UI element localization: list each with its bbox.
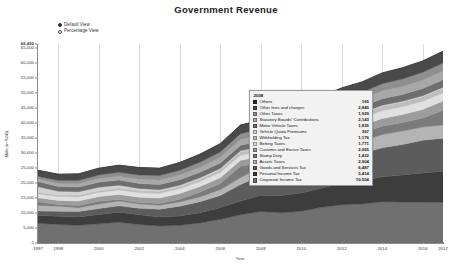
tooltip-row: Corporate Income Tax10,554 (253, 177, 369, 183)
x-axis-tick-label: 2002 (134, 246, 144, 251)
plot-area (37, 44, 443, 244)
y-axis-tick-label: 25,000 (21, 166, 34, 170)
x-axis-tick-label: 1997 (33, 246, 43, 251)
tooltip-row-value: 10,554 (353, 177, 369, 183)
radio-unselected-icon[interactable] (58, 30, 62, 34)
x-axis-tick-label: 2000 (94, 246, 104, 251)
series-color-swatch (253, 130, 257, 134)
series-color-swatch (253, 148, 257, 152)
y-axis-tick-label: 60,000 (21, 61, 34, 65)
y-axis-tick-label: 10,000 (21, 211, 34, 215)
x-axis-tick-label: 2014 (377, 246, 387, 251)
radio-percentage-view-label: Percentage View (64, 28, 99, 34)
tooltip-year: 2008 (253, 93, 369, 99)
radio-percentage-view[interactable]: Percentage View (58, 28, 99, 34)
tooltip-rows: Others165Other fees and charges2,845Othe… (253, 99, 369, 184)
series-color-swatch (253, 118, 257, 122)
x-axis-tick-mark (220, 242, 221, 244)
x-axis-tick-mark (58, 242, 59, 244)
series-color-swatch (253, 160, 257, 164)
x-axis-title: Year (37, 256, 443, 261)
chart-tooltip: 2008 Others165Other fees and charges2,84… (249, 90, 373, 186)
chart-page: Government Revenue Default View Percenta… (0, 0, 452, 275)
stacked-area-series (38, 44, 443, 243)
x-axis-tick-mark (301, 242, 302, 244)
x-axis: Year 19971998200020022004200620082010201… (37, 244, 443, 266)
x-axis-tick-mark (99, 242, 100, 244)
y-axis-tick-label: 65,000 (21, 46, 34, 50)
x-axis-tick-mark (342, 242, 343, 244)
x-axis-tick-label: 2010 (296, 246, 306, 251)
x-axis-tick-mark (423, 242, 424, 244)
y-axis-tick-label: 50,000 (21, 91, 34, 95)
x-axis-tick-label: 2017 (438, 246, 448, 251)
x-axis-tick-mark (382, 242, 383, 244)
x-axis-tick-label: 2006 (215, 246, 225, 251)
series-color-swatch (253, 154, 257, 158)
x-axis-tick-mark (38, 242, 39, 244)
series-color-swatch (253, 124, 257, 128)
x-axis-tick-mark (443, 242, 444, 244)
y-axis-tick-label: 35,000 (21, 136, 34, 140)
x-axis-tick-mark (139, 242, 140, 244)
series-color-swatch (253, 106, 257, 110)
series-color-swatch (253, 172, 257, 176)
y-axis-tick-label: 45,000 (21, 106, 34, 110)
page-title: Government Revenue (0, 4, 452, 15)
y-axis-tick-label: 30,000 (21, 151, 34, 155)
y-axis-tick-label: 55,000 (21, 76, 34, 80)
x-axis-tick-label: 1998 (53, 246, 63, 251)
series-color-swatch (253, 166, 257, 170)
series-color-swatch (253, 112, 257, 116)
y-axis-tick-label: 20,000 (21, 181, 34, 185)
x-axis-tick-label: 2012 (337, 246, 347, 251)
x-axis-tick-label: 2004 (175, 246, 185, 251)
series-color-swatch (253, 178, 257, 182)
y-axis-tick-label: 15,000 (21, 196, 34, 200)
y-axis-tick-label: 5,000 (23, 226, 34, 230)
x-axis-tick-label: 2008 (256, 246, 266, 251)
view-toggle-group[interactable]: Default View Percentage View (58, 22, 99, 35)
series-color-swatch (253, 142, 257, 146)
x-axis-tick-mark (180, 242, 181, 244)
y-axis: $Mln (in SGD) 66,45065,00060,00055,00050… (0, 44, 37, 244)
y-axis-tick-label: 0 (32, 241, 34, 245)
y-axis-tick-label: 40,000 (21, 121, 34, 125)
series-color-swatch (253, 100, 257, 104)
y-axis-title: $Mln (in SGD) (4, 114, 9, 174)
x-axis-tick-label: 2016 (418, 246, 428, 251)
series-color-swatch (253, 136, 257, 140)
radio-selected-icon[interactable] (58, 23, 62, 27)
x-axis-tick-mark (261, 242, 262, 244)
tooltip-row-label: Corporate Income Tax (259, 177, 352, 183)
